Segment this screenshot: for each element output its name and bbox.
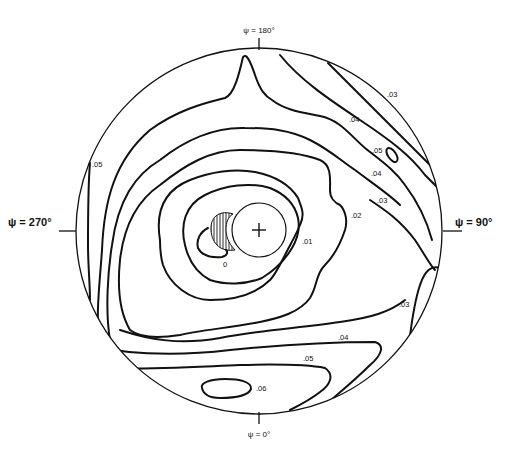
label-03-right: .03 — [399, 300, 409, 309]
hatched-region — [211, 213, 235, 251]
polar-contour-diagram: ψ = 180° ψ = 0° ψ = 270° ψ = 90° — [0, 0, 515, 455]
axis-label-bottom: ψ = 0° — [248, 430, 270, 439]
label-04-bottom: .04 — [338, 333, 348, 342]
axis-label-left: ψ = 270° — [8, 216, 52, 228]
contour-06 — [202, 379, 251, 398]
label-03-mid: .03 — [377, 196, 387, 205]
contour-05-left — [88, 163, 90, 300]
contour-05-island — [384, 146, 400, 164]
contour-right-loop — [370, 200, 435, 270]
label-0: 0 — [223, 260, 227, 269]
label-05-island: .05 — [372, 146, 382, 155]
label-02: .02 — [351, 211, 361, 220]
contour-03-top-right — [280, 55, 445, 195]
contour-04-top-right — [328, 63, 440, 175]
label-05-bottom: .05 — [303, 354, 313, 363]
contour-04-bottom — [85, 342, 381, 410]
axis-label-right: ψ = 90° — [455, 216, 492, 228]
label-01: .01 — [302, 237, 312, 246]
label-03-top: .03 — [387, 90, 397, 99]
label-04-top: .04 — [349, 115, 359, 124]
label-05-left: .05 — [92, 160, 102, 169]
contour-05-bottom — [100, 365, 330, 410]
label-06: .06 — [256, 384, 266, 393]
axis-label-top: ψ = 180° — [243, 26, 274, 35]
label-04-mid: .04 — [371, 169, 381, 178]
